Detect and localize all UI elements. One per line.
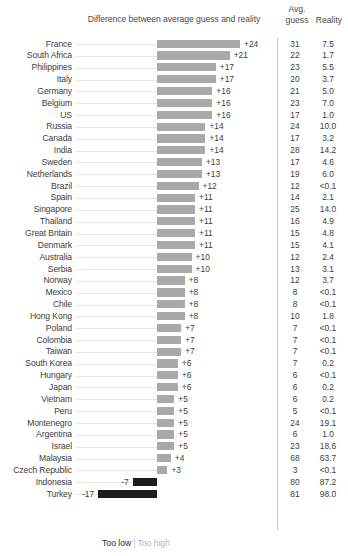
chart-row: Netherlands+13196.0 xyxy=(0,168,348,180)
row-avg-guess-value: 15 xyxy=(280,240,310,250)
chart-row: Spain+11142.1 xyxy=(0,192,348,204)
chart-row: Turkey-178198.0 xyxy=(0,488,348,500)
chart-legend: Too low|Too high xyxy=(0,538,272,548)
row-bar xyxy=(133,478,157,486)
chart-row: India+142814.2 xyxy=(0,145,348,157)
row-leader-line xyxy=(76,376,157,377)
row-bar xyxy=(157,229,195,237)
chart-row: South Africa+21221.7 xyxy=(0,50,348,62)
row-bar xyxy=(157,430,174,438)
row-bar-value: +8 xyxy=(189,311,199,321)
row-reality-value: 2.4 xyxy=(310,252,346,262)
row-bar xyxy=(157,265,192,273)
row-avg-guess-value: 16 xyxy=(280,216,310,226)
row-bar-value: +5 xyxy=(178,429,188,439)
row-bar-value: +5 xyxy=(178,406,188,416)
row-bar xyxy=(157,87,212,95)
chart-row: Philippines+17235.5 xyxy=(0,62,348,74)
row-country-label: Montenegro xyxy=(27,418,72,428)
row-reality-value: 5.0 xyxy=(310,86,346,96)
row-bar-value: +13 xyxy=(206,157,220,167)
chart-row: Vietnam+560.2 xyxy=(0,393,348,405)
row-country-label: Singapore xyxy=(34,204,72,214)
row-leader-line xyxy=(76,245,157,246)
row-avg-guess-value: 24 xyxy=(280,121,310,131)
row-bar-value: +7 xyxy=(185,346,195,356)
row-leader-line xyxy=(76,210,157,211)
row-bar xyxy=(157,51,230,59)
chart-row: Mexico+88<0.1 xyxy=(0,287,348,299)
chart-row: Japan+660.2 xyxy=(0,381,348,393)
row-reality-value: 19.1 xyxy=(310,418,346,428)
row-reality-value: 0.2 xyxy=(310,394,346,404)
row-country-label: US xyxy=(60,110,72,120)
row-country-label: Colombia xyxy=(36,335,72,345)
chart-row: Serbia+10133.1 xyxy=(0,263,348,275)
row-avg-guess-value: 68 xyxy=(280,453,310,463)
row-leader-line xyxy=(76,269,157,270)
row-avg-guess-value: 17 xyxy=(280,110,310,120)
row-avg-guess-value: 7 xyxy=(280,335,310,345)
row-reality-value: 1.0 xyxy=(310,429,346,439)
row-leader-line xyxy=(76,198,157,199)
row-avg-guess-value: 17 xyxy=(280,133,310,143)
row-bar-value: +4 xyxy=(175,453,185,463)
row-leader-line xyxy=(76,305,157,306)
chart-row: Italy+17203.7 xyxy=(0,74,348,86)
row-avg-guess-value: 23 xyxy=(280,98,310,108)
row-leader-line xyxy=(76,459,157,460)
chart-row: France+24317.5 xyxy=(0,38,348,50)
row-leader-line xyxy=(76,364,157,365)
row-bar-value: +6 xyxy=(182,370,192,380)
row-avg-guess-value: 24 xyxy=(280,418,310,428)
row-avg-guess-value: 10 xyxy=(280,311,310,321)
chart-row: Malaysia+46863.7 xyxy=(0,453,348,465)
column-header-avg-guess-line1: Avg. xyxy=(280,4,314,15)
row-avg-guess-value: 22 xyxy=(280,50,310,60)
row-reality-value: <0.1 xyxy=(310,406,346,416)
row-leader-line xyxy=(76,91,157,92)
row-bar xyxy=(157,111,212,119)
row-reality-value: 87.2 xyxy=(310,477,346,487)
chart-header: Difference between average guess and rea… xyxy=(0,0,348,36)
row-bar-value: +6 xyxy=(182,382,192,392)
row-leader-line xyxy=(76,293,157,294)
row-country-label: Norway xyxy=(43,275,72,285)
row-bar xyxy=(157,324,181,332)
row-bar-value: +5 xyxy=(178,441,188,451)
row-bar-value: +24 xyxy=(244,39,258,49)
row-leader-line xyxy=(76,162,157,163)
chart-row: Norway+8123.7 xyxy=(0,275,348,287)
chart-row: Poland+77<0.1 xyxy=(0,322,348,334)
row-avg-guess-value: 17 xyxy=(280,157,310,167)
chart-row: Israel+52318.6 xyxy=(0,441,348,453)
chart-row: Indonesia-78087.2 xyxy=(0,476,348,488)
row-avg-guess-value: 25 xyxy=(280,204,310,214)
chart-row: Denmark+11154.1 xyxy=(0,239,348,251)
row-bar-value: +8 xyxy=(189,287,199,297)
row-avg-guess-value: 6 xyxy=(280,429,310,439)
row-avg-guess-value: 8 xyxy=(280,299,310,309)
row-reality-value: 4.9 xyxy=(310,216,346,226)
row-reality-value: 4.1 xyxy=(310,240,346,250)
row-bar xyxy=(157,383,178,391)
row-reality-value: 1.0 xyxy=(310,110,346,120)
legend-too-low: Too low xyxy=(102,538,131,548)
row-avg-guess-value: 28 xyxy=(280,145,310,155)
row-reality-value: 1.7 xyxy=(310,50,346,60)
chart-row: South Korea+670.2 xyxy=(0,358,348,370)
chart-row: Great Britain+11154.8 xyxy=(0,228,348,240)
row-bar-value: +5 xyxy=(178,394,188,404)
row-country-label: Belgium xyxy=(42,98,72,108)
row-bar xyxy=(157,442,174,450)
chart-container: Difference between average guess and rea… xyxy=(0,0,348,556)
row-bar-value: +14 xyxy=(209,145,223,155)
row-leader-line xyxy=(76,316,157,317)
row-avg-guess-value: 3 xyxy=(280,465,310,475)
row-bar xyxy=(157,359,178,367)
row-country-label: Germany xyxy=(37,86,72,96)
chart-row: Germany+16215.0 xyxy=(0,85,348,97)
row-country-label: France xyxy=(46,39,72,49)
row-avg-guess-value: 21 xyxy=(280,86,310,96)
row-bar-value: +13 xyxy=(206,169,220,179)
